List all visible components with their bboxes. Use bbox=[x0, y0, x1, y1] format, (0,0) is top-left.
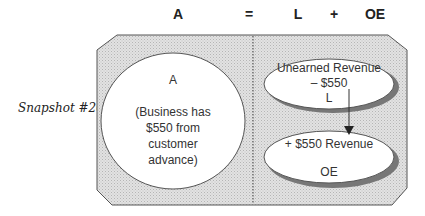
assets-circle-line3: customer bbox=[148, 136, 197, 152]
assets-circle-line4: advance) bbox=[148, 152, 197, 168]
equity-ellipse-line2: OE bbox=[320, 164, 337, 180]
assets-circle-line2: $550 from bbox=[146, 120, 200, 136]
liability-ellipse-line1: Unearned Revenue bbox=[277, 60, 381, 76]
liability-ellipse-line2: – $550 bbox=[311, 75, 348, 91]
assets-circle-line1: (Business has bbox=[135, 104, 210, 120]
diagram-canvas bbox=[0, 0, 425, 216]
equity-ellipse-line1: + $550 Revenue bbox=[285, 136, 373, 152]
liability-ellipse-line3: L bbox=[326, 90, 333, 106]
assets-circle-title: A bbox=[169, 72, 177, 88]
